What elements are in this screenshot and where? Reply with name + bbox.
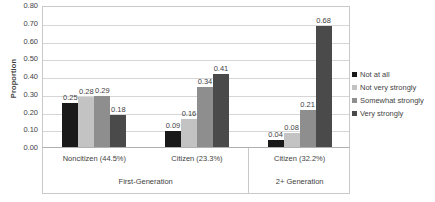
y-axis-tick-label: 0.70 xyxy=(12,20,38,28)
y-axis-tick-label: 0.30 xyxy=(12,91,38,99)
plot-area: 0.250.280.290.180.090.160.340.410.040.08… xyxy=(42,6,350,148)
legend-swatch-icon xyxy=(352,72,357,77)
y-axis-tick-labels: 0.800.700.600.500.400.300.200.100.00 xyxy=(12,6,38,148)
legend-label: Not very strongly xyxy=(360,83,416,92)
bar-slot: 0.08 xyxy=(284,7,300,147)
legend-swatch-icon xyxy=(352,98,357,103)
bar-value-label: 0.29 xyxy=(95,87,110,95)
bar-value-label: 0.41 xyxy=(214,65,229,73)
legend-swatch-icon xyxy=(352,85,357,90)
bar-value-label: 0.21 xyxy=(300,101,315,109)
bar-value-label: 0.16 xyxy=(182,110,197,118)
category-label: Citizen (32.2%) xyxy=(248,148,351,169)
group-divider xyxy=(248,148,249,193)
bar-value-label: 0.09 xyxy=(166,122,181,130)
legend-label: Somewhat strongly xyxy=(360,96,424,105)
bar[interactable] xyxy=(62,103,78,147)
bars-layer: 0.250.280.290.180.090.160.340.410.040.08… xyxy=(43,7,349,147)
legend-item[interactable]: Not very strongly xyxy=(352,81,434,93)
generation-group-label: First-Generation xyxy=(43,169,248,193)
bar-value-label: 0.25 xyxy=(63,94,78,102)
bar[interactable] xyxy=(316,26,332,147)
y-axis-tick-label: 0.20 xyxy=(12,109,38,117)
bar[interactable] xyxy=(284,133,300,147)
bar-group: 0.040.080.210.68 xyxy=(248,7,351,147)
bar[interactable] xyxy=(165,131,181,147)
legend-label: Not at all xyxy=(360,70,390,79)
bar[interactable] xyxy=(197,87,213,147)
bar-slot: 0.29 xyxy=(94,7,110,147)
bar-group: 0.090.160.340.41 xyxy=(146,7,249,147)
bar-value-label: 0.34 xyxy=(198,78,213,86)
y-axis-tick-label: 0.10 xyxy=(12,126,38,134)
category-label: Citizen (23.3%) xyxy=(146,148,249,169)
legend-item[interactable]: Not at all xyxy=(352,68,434,80)
bar-slot: 0.09 xyxy=(165,7,181,147)
category-label: Noncitizen (44.5%) xyxy=(43,148,146,169)
bar[interactable] xyxy=(78,97,94,147)
bar[interactable] xyxy=(110,115,126,147)
bar-slot: 0.25 xyxy=(62,7,78,147)
legend-label: Very strongly xyxy=(360,109,403,118)
bar-slot: 0.21 xyxy=(300,7,316,147)
bar-slot: 0.68 xyxy=(316,7,332,147)
bar-group: 0.250.280.290.18 xyxy=(43,7,146,147)
bar-slot: 0.16 xyxy=(181,7,197,147)
bar-slot: 0.41 xyxy=(213,7,229,147)
y-axis-tick-label: 0.80 xyxy=(12,2,38,10)
legend-item[interactable]: Somewhat strongly xyxy=(352,94,434,106)
y-axis-tick-label: 0.00 xyxy=(12,144,38,152)
y-axis-tick-label: 0.40 xyxy=(12,73,38,81)
bar-slot: 0.34 xyxy=(197,7,213,147)
bar[interactable] xyxy=(94,96,110,147)
bar[interactable] xyxy=(181,119,197,147)
bar[interactable] xyxy=(300,110,316,147)
legend-item[interactable]: Very strongly xyxy=(352,107,434,119)
bar-value-label: 0.04 xyxy=(268,131,283,139)
bar[interactable] xyxy=(213,74,229,147)
category-axis: Noncitizen (44.5%)Citizen (23.3%)Citizen… xyxy=(42,148,350,194)
bar-slot: 0.28 xyxy=(78,7,94,147)
bar-slot: 0.18 xyxy=(110,7,126,147)
bar-value-label: 0.08 xyxy=(284,124,299,132)
bar-slot: 0.04 xyxy=(268,7,284,147)
y-axis-tick-label: 0.50 xyxy=(12,55,38,63)
y-axis-tick-label: 0.60 xyxy=(12,38,38,46)
bar-value-label: 0.68 xyxy=(316,17,331,25)
chart-legend: Not at allNot very stronglySomewhat stro… xyxy=(352,68,434,120)
legend-swatch-icon xyxy=(352,111,357,116)
bar-chart: Proportion 0.800.700.600.500.400.300.200… xyxy=(0,0,435,202)
bar-value-label: 0.18 xyxy=(111,106,126,114)
bar[interactable] xyxy=(268,140,284,147)
bar-value-label: 0.28 xyxy=(79,88,94,96)
generation-group-label: 2+ Generation xyxy=(248,169,351,193)
